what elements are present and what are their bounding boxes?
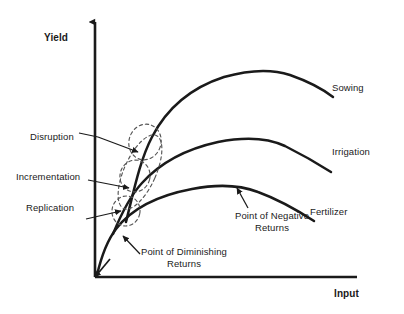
annotation-incrementation: Incrementation xyxy=(16,171,80,183)
annotation-leaders-group xyxy=(79,133,248,254)
upper-dashed-ellipse xyxy=(124,120,166,164)
curve-label-irrigation: Irrigation xyxy=(332,146,370,158)
curve-label-sowing: Sowing xyxy=(332,82,364,94)
y-axis-label: Yield xyxy=(44,32,68,44)
lower-dashed-ellipse xyxy=(109,193,143,228)
dashed-highlight-group xyxy=(109,120,171,229)
response-curves-group xyxy=(97,71,333,275)
annotation-negative-returns-line2: Returns xyxy=(255,222,289,233)
annotation-replication: Replication xyxy=(26,202,74,214)
x-axis-label: Input xyxy=(334,288,359,300)
axes-group xyxy=(95,22,357,277)
annotation-point-of-negative-returns: Point of Negative Returns xyxy=(225,210,319,234)
yield-input-response-chart: Yield Input Sowing Irrigation Fertilizer… xyxy=(0,0,404,314)
annotation-negative-returns-line1: Point of Negative xyxy=(235,210,309,221)
annotation-diminishing-returns-line1: Point of Diminishing xyxy=(141,246,227,257)
leader-disruption xyxy=(98,137,138,152)
leader-negative-returns xyxy=(237,188,248,208)
annotation-point-of-diminishing-returns: Point of Diminishing Returns xyxy=(130,246,238,270)
annotation-diminishing-returns-line2: Returns xyxy=(167,258,201,269)
leader-replication xyxy=(86,211,121,219)
annotation-disruption: Disruption xyxy=(30,131,74,143)
